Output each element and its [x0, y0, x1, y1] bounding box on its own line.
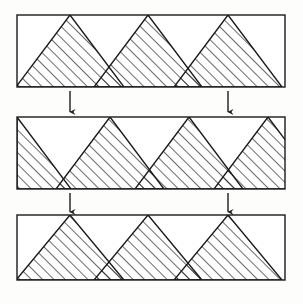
triangle-tessellation-diagram — [0, 0, 303, 304]
panel-top — [16, 15, 285, 87]
panel-middle — [17, 117, 303, 189]
panel-bottom — [16, 215, 285, 280]
panels-layer — [16, 15, 303, 280]
figure-root — [0, 0, 303, 304]
